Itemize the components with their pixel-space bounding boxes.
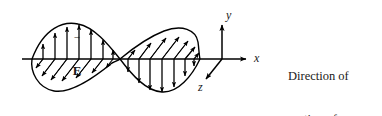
caption-line-2: motion of wave	[288, 112, 366, 116]
b-arrows-positive-z	[128, 37, 199, 59]
y-axis-label: y	[226, 9, 231, 23]
z-axis-line	[206, 59, 222, 79]
direction-of-motion-caption: Direction of motion of wave	[288, 40, 366, 116]
vector-arrow-accent-icon: →	[71, 34, 83, 38]
e-arrows-down	[128, 59, 194, 92]
em-wave-figure: → E → B → E x y z Direction of motion of…	[0, 0, 382, 116]
e-field-label-top: → E	[71, 6, 83, 105]
caption-line-1: Direction of	[288, 69, 366, 83]
b-field-label-bottom: → B	[51, 95, 63, 116]
e-envelope-second-lobe	[120, 59, 200, 92]
x-axis-label: x	[254, 52, 259, 66]
z-axis-label: z	[198, 81, 203, 95]
e-field-label-bottom: → E	[156, 95, 168, 116]
